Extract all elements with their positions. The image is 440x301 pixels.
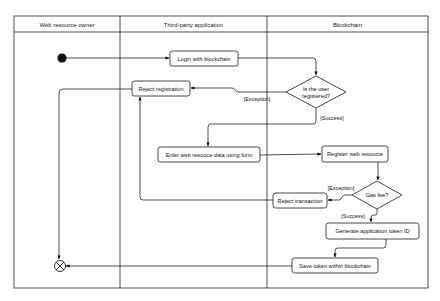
action-label: Register web resource <box>327 151 383 157</box>
action-register-web-resource: Register web resource <box>322 146 388 162</box>
action-label: Generate application token ID <box>335 228 409 234</box>
action-label: Save token within blockchain <box>299 263 371 269</box>
action-label: Enter web resouce data using form <box>166 152 253 158</box>
action-generate-token: Generate application token ID <box>326 223 419 239</box>
decision-label-line2: registered? <box>302 93 330 99</box>
decision-is-user-registered: Is the user registered? <box>286 76 346 108</box>
action-label: Reject registration <box>138 86 183 92</box>
decision-gas-fee: Gas fee? <box>352 181 402 209</box>
action-reject-registration: Reject registration <box>132 81 190 96</box>
action-label: Reject transaction <box>278 198 323 204</box>
final-node <box>55 261 66 272</box>
lane-header-web-resource-owner: Web resource owner <box>39 22 94 28</box>
edge-registered-to-reject-registration <box>191 88 286 92</box>
edge-gas-fee-to-generate-token <box>371 209 377 222</box>
action-enter-web-resource-data: Enter web resouce data using form <box>158 147 260 162</box>
initial-node <box>57 53 66 62</box>
action-login-with-blockchain: Login with blockchain <box>170 51 238 66</box>
guard-registered-exception: [Exception] <box>244 96 271 102</box>
edge-reject-registration-to-end <box>59 89 133 259</box>
lane-header-third-party-application: Third-party application <box>164 22 223 28</box>
edge-login-to-registered <box>238 58 316 75</box>
action-label: Login with blockchain <box>177 56 230 62</box>
edge-enter-data-to-register-resource <box>260 154 321 155</box>
edge-registered-to-enter-data <box>208 108 316 146</box>
activity-diagram: Web resource owner Third-party applicati… <box>0 0 440 301</box>
decision-label: Gas fee? <box>366 192 389 198</box>
guard-gas-success: [Success] <box>341 213 365 219</box>
decision-label-line1: Is the user <box>303 86 329 92</box>
action-reject-transaction: Reject transaction <box>273 193 327 208</box>
guard-registered-success: [Success] <box>320 115 344 121</box>
edge-gas-fee-to-reject-transaction <box>328 195 352 200</box>
action-save-token: Save token within blockchain <box>292 258 378 273</box>
lane-header-blockchain: Blockchain <box>333 22 362 28</box>
guard-gas-exception: [Exception] <box>328 185 355 191</box>
edge-generate-token-to-save-token <box>335 239 386 257</box>
